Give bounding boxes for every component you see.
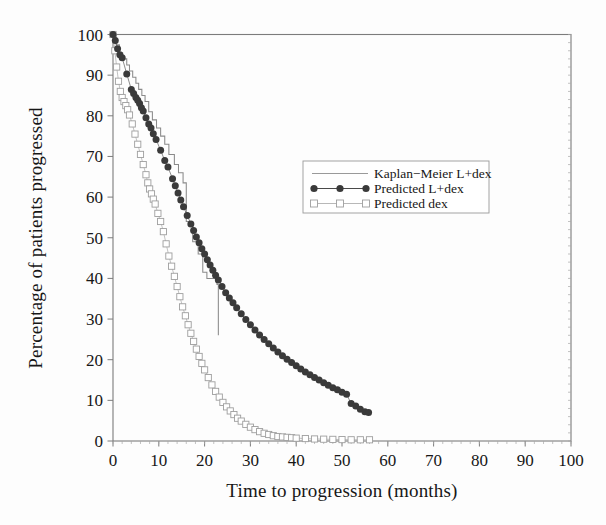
data-point-marker [164, 164, 171, 171]
predicted-dex-line [113, 35, 369, 440]
data-point-marker [119, 54, 126, 61]
x-tick-label-10: 10 [150, 451, 167, 470]
data-point-marker [196, 353, 202, 359]
data-point-marker [185, 322, 191, 328]
filled-circle-icon [336, 185, 343, 192]
y-tick-label-100: 100 [78, 26, 104, 45]
data-point-marker [321, 436, 327, 442]
data-point-marker [180, 203, 187, 210]
data-point-marker [202, 367, 208, 373]
x-tick-label-70: 70 [425, 451, 442, 470]
data-point-marker [177, 294, 183, 300]
data-point-marker [142, 114, 149, 121]
x-tick-label-60: 60 [379, 451, 396, 470]
data-point-marker [233, 304, 240, 311]
data-point-marker [155, 210, 161, 216]
series-predicted-l-dex [110, 31, 373, 416]
y-tick-label-10: 10 [86, 391, 103, 410]
x-tick-label-30: 30 [242, 451, 259, 470]
data-point-marker [238, 310, 245, 317]
data-point-marker [348, 437, 354, 443]
data-point-marker [166, 253, 172, 259]
data-point-marker [145, 180, 151, 186]
data-point-marker [193, 346, 199, 352]
x-tick-label-20: 20 [196, 451, 213, 470]
plot-frame [113, 35, 571, 442]
y-tick-label-30: 30 [86, 310, 103, 329]
filled-circle-icon [310, 185, 317, 192]
data-point-marker [293, 435, 299, 441]
data-point-marker [184, 212, 191, 219]
data-point-marker [366, 437, 372, 443]
data-point-marker [163, 241, 169, 247]
series-predicted-dex [110, 31, 373, 442]
open-square-icon [337, 200, 344, 207]
y-tick-label-50: 50 [86, 229, 103, 248]
y-tick-label-0: 0 [95, 432, 104, 451]
data-point-marker [129, 121, 135, 127]
data-point-marker [171, 273, 177, 279]
data-point-marker [365, 409, 372, 416]
data-point-marker [172, 182, 179, 189]
y-axis-title: Percentage of patients progressed [25, 107, 46, 369]
data-point-marker [188, 330, 194, 336]
x-tick-label-0: 0 [109, 451, 118, 470]
x-tick-label-40: 40 [288, 451, 305, 470]
data-point-marker [302, 435, 308, 441]
y-tick-label-80: 80 [86, 107, 103, 126]
open-square-icon [311, 200, 318, 207]
predicted-l-dex-line [113, 35, 369, 413]
data-point-marker [115, 78, 121, 84]
data-point-marker [152, 201, 158, 207]
data-point-marker [169, 263, 175, 269]
y-tick-label-60: 60 [86, 188, 103, 207]
data-point-marker [126, 112, 132, 118]
legend-label-kaplan-meier: Kaplan−Meier L+dex [374, 166, 492, 181]
data-point-marker [242, 316, 249, 323]
data-point-marker [311, 436, 317, 442]
x-axis-title: Time to progression (months) [226, 480, 457, 502]
data-point-marker [110, 31, 117, 38]
data-point-marker [132, 131, 138, 137]
data-point-marker [157, 147, 164, 154]
data-point-marker [330, 436, 336, 442]
data-point-marker [135, 141, 141, 147]
data-point-marker [153, 136, 160, 143]
y-tick-label-40: 40 [86, 269, 103, 288]
progression-free-survival-chart: 0102030405060708090100 01020304050607080… [0, 0, 606, 525]
data-point-marker [190, 227, 197, 234]
data-point-marker [343, 391, 350, 398]
data-point-marker [158, 218, 164, 224]
data-point-marker [219, 283, 226, 290]
data-point-marker [339, 436, 345, 442]
data-point-marker [180, 304, 186, 310]
data-point-marker [175, 190, 182, 197]
figure-container: 0102030405060708090100 01020304050607080… [0, 0, 606, 525]
y-axis-tick-labels: 0102030405060708090100 [78, 26, 104, 452]
data-point-marker [114, 64, 120, 70]
legend-label-predicted-l-dex: Predicted L+dex [374, 181, 464, 196]
data-point-marker [209, 382, 215, 388]
x-axis-tick-labels: 0102030405060708090100 [109, 451, 584, 470]
data-point-marker [174, 283, 180, 289]
open-square-icon [363, 200, 370, 207]
data-point-marker [196, 239, 203, 246]
filled-circle-icon [362, 185, 369, 192]
data-point-marker [117, 88, 123, 94]
data-point-marker [215, 277, 222, 284]
data-point-marker [182, 313, 188, 319]
data-point-marker [140, 161, 146, 167]
data-point-marker [169, 175, 176, 182]
x-tick-label-80: 80 [471, 451, 488, 470]
data-point-marker [187, 220, 194, 227]
y-axis-ticks [108, 35, 114, 442]
x-tick-label-50: 50 [334, 451, 351, 470]
data-point-marker [112, 37, 119, 44]
data-point-marker [247, 321, 254, 328]
x-tick-label-90: 90 [517, 451, 534, 470]
data-point-marker [123, 70, 130, 77]
data-point-marker [357, 437, 363, 443]
data-point-marker [199, 360, 205, 366]
data-point-marker [177, 196, 184, 203]
data-point-marker [160, 229, 166, 235]
